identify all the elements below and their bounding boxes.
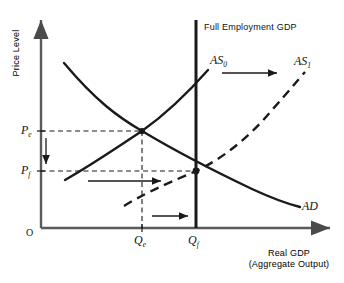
ad-curve-label: AD <box>302 200 318 212</box>
x-axis-title-line1: Real GDP <box>236 248 342 259</box>
as0-label-sub: 0 <box>223 60 227 69</box>
x-axis-title: Real GDP (Aggregate Output) <box>236 248 342 270</box>
ad-as-diagram: Price Level Real GDP (Aggregate Output) … <box>0 0 344 283</box>
x-tick-label-qf: Qf <box>188 234 199 249</box>
x-tick-qf-base: Q <box>188 233 197 247</box>
x-tick-qe-base: Q <box>134 233 143 247</box>
diagram-canvas <box>0 0 344 283</box>
equilibrium-point-full-employment <box>193 168 200 175</box>
x-tick-qe-sub: e <box>143 240 146 249</box>
equilibrium-point-initial <box>139 128 145 134</box>
as1-label-sub: 1 <box>307 61 311 70</box>
origin-label: O <box>26 228 33 238</box>
y-axis-title-text: Price Level <box>11 30 21 77</box>
x-axis-title-line2: (Aggregate Output) <box>236 259 342 270</box>
x-tick-qf-sub: f <box>197 240 199 249</box>
x-tick-label-qe: Qe <box>134 234 146 249</box>
y-tick-pe-sub: e <box>28 130 31 139</box>
ad-curve <box>64 63 300 207</box>
as1-curve <box>124 72 305 206</box>
as1-label-base: AS <box>294 54 307 68</box>
y-tick-label-pe: Pe <box>21 124 32 139</box>
as1-curve-label: AS1 <box>294 55 311 70</box>
y-tick-pf-sub: f <box>28 170 30 179</box>
as0-curve-label: AS0 <box>210 54 227 69</box>
ad-label-base: AD <box>302 199 318 213</box>
as0-label-base: AS <box>210 53 223 67</box>
full-employment-gdp-label: Full Employment GDP <box>204 23 297 32</box>
y-axis-title: Price Level <box>5 23 23 83</box>
y-tick-label-pf: Pf <box>21 164 30 179</box>
